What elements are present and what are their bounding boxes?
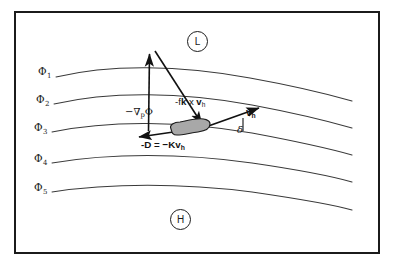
high-pressure-marker: H: [170, 209, 191, 230]
contour-label-3: Φ3: [34, 122, 47, 133]
contour-label-1: Φ1: [38, 66, 51, 77]
contour-lines: [52, 68, 352, 210]
pressure-gradient-vector: [149, 54, 150, 131]
contour-line-4: [52, 156, 352, 183]
angle-delta-label: δ: [237, 125, 243, 135]
drag-label: -D = −Kvh: [141, 140, 185, 150]
contour-line-1: [56, 68, 352, 101]
wind-vector-label: vh: [246, 108, 256, 118]
air-parcel: [171, 119, 210, 135]
coriolis-vector: [155, 51, 202, 124]
low-pressure-marker: L: [187, 31, 208, 52]
contour-label-4: Φ4: [34, 153, 47, 164]
contour-label-5: Φ5: [34, 182, 47, 193]
contour-line-5: [52, 185, 352, 210]
coriolis-label: -fk x vh: [175, 97, 205, 107]
contour-label-2: Φ2: [36, 94, 49, 105]
figure-root: Φ1 Φ2 Φ3 Φ4 Φ5 −∇pΦ -fk x vh -D = −Kvh v…: [0, 0, 395, 267]
pressure-gradient-label: −∇pΦ: [125, 107, 153, 117]
